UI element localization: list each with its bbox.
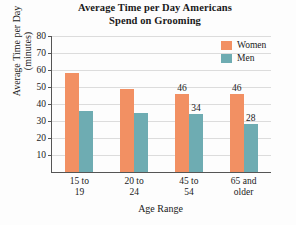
bar-value-label: 34 — [191, 103, 201, 113]
y-axis-tick-mark — [48, 138, 52, 139]
y-axis-tick-label: 20 — [37, 133, 47, 143]
legend-label: Women — [237, 40, 266, 50]
bar-group: 463445 to54 — [175, 36, 203, 172]
bar-value-label: 28 — [246, 113, 256, 123]
x-axis-category-line-2: older — [215, 187, 273, 198]
bar-women: 46 — [230, 94, 244, 172]
legend-swatch-men — [221, 54, 232, 63]
y-axis-tick-label: 60 — [37, 65, 47, 75]
y-axis-tick-mark — [48, 70, 52, 71]
y-axis-tick-label: 30 — [37, 116, 47, 126]
x-axis-category-line-1: 20 to — [124, 176, 143, 186]
x-axis-category-line-2: 54 — [160, 187, 218, 198]
y-axis-tick-mark — [48, 121, 52, 122]
legend-item-men: Men — [221, 53, 266, 63]
bar-women: 46 — [175, 94, 189, 172]
x-axis-category-label: 20 to24 — [105, 176, 163, 198]
x-axis-category-line-1: 65 and — [231, 176, 257, 186]
grooming-bar-chart: Average Time per Day Americans Spend on … — [0, 0, 296, 225]
bar-value-label: 46 — [177, 83, 187, 93]
y-axis-title-line-1: Average Time per Day — [11, 6, 22, 97]
bar-women — [120, 89, 134, 172]
y-axis-tick-label: 80 — [37, 31, 47, 41]
bar-men — [79, 111, 93, 172]
bar-group: 15 to19 — [65, 36, 93, 172]
x-axis-category-line-1: 45 to — [179, 176, 198, 186]
y-axis-tick-mark — [48, 104, 52, 105]
y-axis-tick-label: 10 — [37, 150, 47, 160]
y-axis-title: Average Time per Day (minutes) — [7, 0, 37, 119]
x-axis-category-label: 65 andolder — [215, 176, 273, 198]
chart-title-line-1: Average Time per Day Americans — [78, 2, 232, 13]
x-axis-category-line-2: 24 — [105, 187, 163, 198]
y-axis-title-line-2: (minutes) — [22, 32, 33, 70]
legend-item-women: Women — [221, 40, 266, 50]
x-axis-category-line-1: 15 to — [70, 176, 89, 186]
bar-men: 28 — [244, 124, 258, 172]
x-axis-category-line-2: 19 — [50, 187, 108, 198]
bar-value-label: 46 — [232, 83, 242, 93]
bar-group: 20 to24 — [120, 36, 148, 172]
legend-swatch-women — [221, 41, 232, 50]
x-axis-category-label: 15 to19 — [50, 176, 108, 198]
y-axis-tick-mark — [48, 87, 52, 88]
legend-label: Men — [237, 53, 254, 63]
y-axis-tick-mark — [48, 53, 52, 54]
x-axis-title: Age Range — [51, 203, 270, 214]
chart-title: Average Time per Day Americans Spend on … — [40, 2, 270, 27]
y-axis-tick-label: 70 — [37, 48, 47, 58]
y-axis-tick-mark — [48, 155, 52, 156]
y-axis-tick-mark — [48, 36, 52, 37]
x-axis-category-label: 45 to54 — [160, 176, 218, 198]
bar-men: 34 — [189, 114, 203, 172]
y-axis-tick-label: 50 — [37, 82, 47, 92]
chart-title-line-2: Spend on Grooming — [109, 15, 201, 26]
y-axis-tick-label: 40 — [37, 99, 47, 109]
chart-legend: WomenMen — [221, 40, 266, 63]
bar-women — [65, 73, 79, 172]
bar-men — [134, 113, 148, 173]
